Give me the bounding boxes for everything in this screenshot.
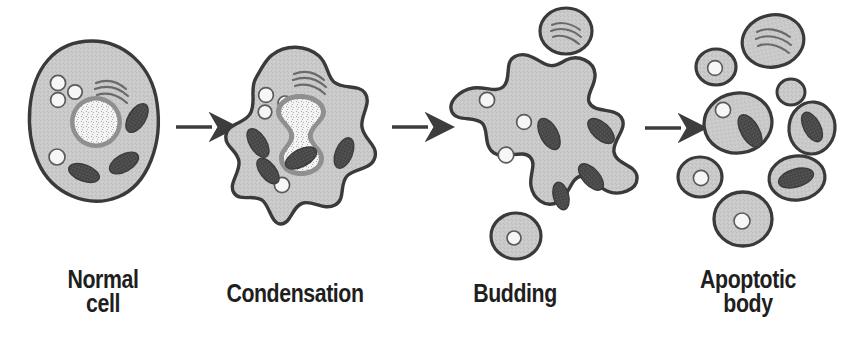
vesicle	[51, 93, 66, 108]
apoptotic-body	[767, 153, 827, 203]
detached-bud-bottom	[491, 213, 541, 259]
vesicle	[507, 231, 521, 245]
stage-label-normal-cell: Normal cell	[29, 268, 177, 316]
apoptotic-body	[678, 157, 722, 197]
stage-label-budding: Budding	[437, 282, 593, 306]
vesicle	[517, 115, 532, 130]
nucleus-normal	[70, 96, 122, 148]
stage-label-condensation: Condensation	[209, 282, 381, 306]
vesicle	[693, 170, 708, 185]
vesicle	[50, 75, 65, 90]
apoptotic-body	[786, 100, 837, 157]
vesicle	[734, 213, 750, 229]
vesicle	[259, 88, 274, 103]
stage-apoptotic-body	[678, 9, 838, 246]
apoptotic-body	[700, 89, 776, 158]
stage-budding	[451, 8, 637, 259]
stage-label-apoptotic-body: Apoptotic body	[666, 268, 830, 316]
vesicle	[68, 85, 82, 99]
apoptotic-body	[737, 9, 808, 73]
vesicle	[49, 149, 65, 165]
apoptotic-body	[696, 49, 736, 85]
stage-normal-cell	[29, 41, 158, 201]
vesicle	[479, 92, 494, 107]
apoptotic-body	[714, 192, 772, 246]
vesicle	[258, 105, 272, 119]
apoptosis-diagram: Normal cell Condensation Budding Apoptot…	[0, 0, 850, 351]
vesicle	[708, 61, 723, 76]
detached-bud-top	[540, 8, 592, 54]
vesicle	[498, 147, 514, 163]
stage-condensation	[226, 47, 376, 224]
apoptotic-body	[777, 79, 805, 105]
vesicle	[715, 102, 730, 117]
